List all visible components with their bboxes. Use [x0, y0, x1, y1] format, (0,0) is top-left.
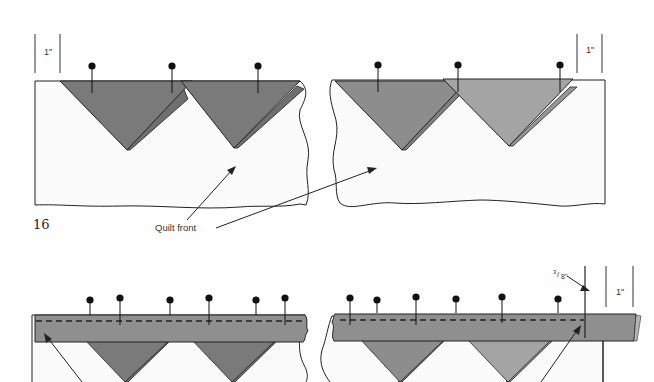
binding-strip-left: [35, 315, 308, 342]
seam-allowance-label: /: [557, 270, 560, 279]
seam-allowance-sub: 8": [561, 273, 568, 280]
measure-label: 1": [616, 287, 624, 297]
measure-1in-bottom: 1": [606, 266, 633, 307]
binding-strip-right: [332, 314, 636, 341]
measure-1in-left: 1": [35, 34, 60, 73]
pin: [554, 295, 561, 313]
pin: [452, 295, 459, 313]
seam-allowance-arrow: [567, 276, 590, 291]
pin: [373, 296, 380, 313]
pin: [252, 296, 259, 315]
measure-1in-right: 1": [577, 34, 602, 73]
measure-label: 1": [44, 47, 52, 57]
quilt-diagram: 1" 1" Quilt front 16: [0, 0, 654, 382]
callout-label: Quilt front: [155, 222, 197, 233]
measure-label: 1": [586, 45, 594, 55]
pin: [166, 296, 173, 315]
pin: [86, 296, 93, 315]
step-number: 16: [33, 217, 50, 232]
